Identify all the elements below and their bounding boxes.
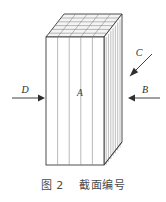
arrow-D-label: D [20,84,29,95]
right-side-face-group [104,14,122,165]
front-face-group: A [46,37,104,165]
arrow-B-head [128,95,135,102]
arrow-B-group: B [128,84,160,101]
arrow-D-group: D [12,84,45,101]
figure-container: A D B C 图 2 截面编号 [0,0,166,202]
cross-section-diagram: A D B C [0,0,166,202]
arrow-C-group: C [130,47,153,77]
side-face-layer-lines [106,20,120,165]
arrow-C-label: C [136,47,143,58]
arrow-D-head [38,95,45,102]
arrow-B-label: B [142,84,148,95]
front-face-label-A: A [76,88,83,98]
front-face [46,37,104,165]
figure-caption: 图 2 截面编号 [0,176,166,192]
